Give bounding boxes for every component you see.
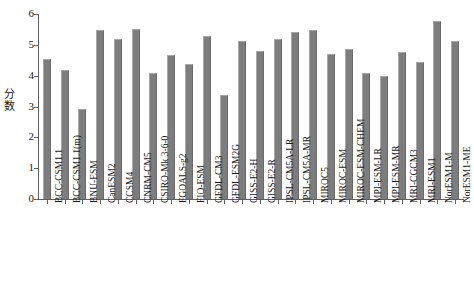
y-axis-label: 分数 (1, 88, 17, 112)
y-axis-tick-label: 2 (29, 130, 35, 142)
y-axis-tick-label: 5 (29, 38, 35, 50)
x-axis-tick-label: NorESM1-ME (460, 147, 474, 203)
y-axis-label-char: 数 (1, 100, 17, 112)
y-axis-tick-label: 6 (29, 7, 35, 19)
x-axis-tick-label: GISS-E2-H (247, 159, 261, 203)
bar (43, 59, 51, 199)
y-axis-tick-label: 0 (29, 192, 35, 204)
x-axis-tick-label: NorESM1-M (442, 152, 456, 203)
x-axis-tick-label: GFDL-ESM2G (229, 144, 243, 203)
x-axis-tick-label: FIO-ESM (194, 165, 208, 203)
y-axis-tick (34, 137, 39, 138)
x-axis-tick-label: BCC-CSM1.1(m) (70, 135, 84, 203)
x-axis-tick-label: FGOALS-g2 (176, 153, 190, 203)
y-axis-label-char: 分 (1, 88, 17, 100)
x-axis-tick-label: MIROC-ESM-CHEM (354, 119, 368, 203)
x-axis-tick-label: CNRM-CM5 (141, 152, 155, 203)
y-axis-tick (34, 14, 39, 15)
x-axis-tick-label: GISS-E2-R (265, 159, 279, 203)
x-axis-tick-label: IPSL-CM5A-LR (283, 139, 297, 203)
x-axis-tick-labels: BCC-CSM1.1BCC-CSM1.1(m)BNU-ESMCanESM2CCS… (38, 203, 464, 303)
x-axis-tick-label: MRI-CGCM3 (407, 149, 421, 203)
x-axis-tick-label: MIROC5 (318, 167, 332, 203)
y-axis-tick-label: 3 (29, 100, 35, 112)
x-axis-tick-label: IPSL-CM5A-MR (300, 136, 314, 203)
x-axis-tick-label: CSIRO-Mk 3-6-0 (158, 136, 172, 203)
x-axis-tick-label: BCC-CSM1.1 (52, 149, 66, 203)
y-axis-tick-label: 1 (29, 161, 35, 173)
y-axis-tick (34, 168, 39, 169)
x-axis-tick-label: CCSM4 (123, 172, 137, 203)
y-axis-tick (34, 45, 39, 46)
y-axis-tick (34, 76, 39, 77)
x-axis-tick-label: MPI-ESM-LR (371, 148, 385, 203)
x-axis-tick-label: MIROC-ESM (336, 149, 350, 203)
y-axis-tick-label: 4 (29, 69, 35, 81)
x-axis-tick-label: GFDL-CM3 (212, 155, 226, 203)
y-axis-tick (34, 107, 39, 108)
x-axis-tick-label: BNU-ESM (87, 160, 101, 203)
x-axis-tick-label: MRI-ESM1 (425, 158, 439, 203)
x-axis-tick-label: CanESM2 (105, 163, 119, 203)
y-axis-tick (34, 199, 39, 200)
x-axis-tick-label: MPI-ESM-MR (389, 145, 403, 203)
